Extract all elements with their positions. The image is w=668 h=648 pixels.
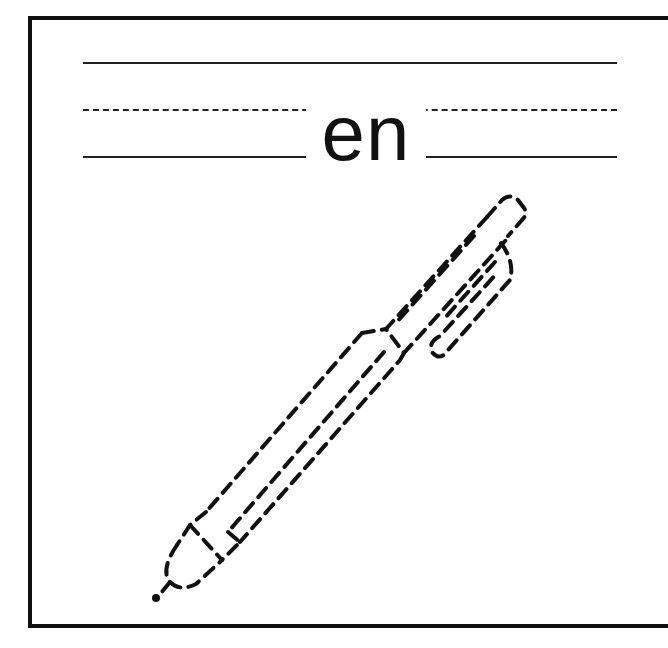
pen-tracing-illustration [0,0,646,648]
